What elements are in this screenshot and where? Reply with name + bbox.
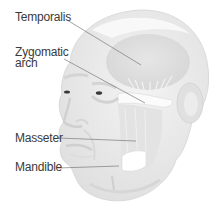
mandible-bone xyxy=(122,151,146,171)
left-eye xyxy=(64,90,70,93)
head-anatomy-illustration xyxy=(0,0,217,211)
right-eye xyxy=(96,91,102,95)
temporalis-muscle xyxy=(106,34,190,90)
temporalis-label: Temporalis xyxy=(15,11,71,23)
zygomatic-arch-label: Zygomatic arch xyxy=(15,47,69,69)
zygomatic-arch-label-line2: arch xyxy=(15,58,69,69)
masseter-label: Masseter xyxy=(15,132,63,144)
mandible-label: Mandible xyxy=(15,161,62,173)
